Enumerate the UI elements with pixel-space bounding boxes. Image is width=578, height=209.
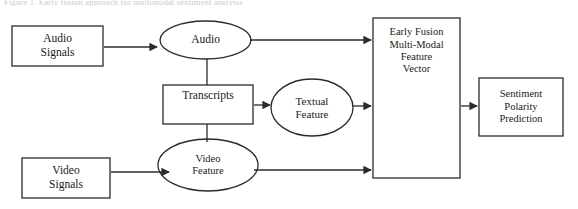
node-shape-transcripts <box>163 85 253 124</box>
node-shape-early-fusion <box>373 18 460 178</box>
node-shape-audio <box>160 21 251 59</box>
node-shape-audio-signals <box>12 26 103 66</box>
node-shape-sentiment-prediction <box>479 78 563 136</box>
node-shape-video-signals <box>22 158 110 198</box>
node-shape-video-feature <box>158 139 258 191</box>
diagram-canvas: Figure 1. Early fusion approach for mult… <box>0 0 578 209</box>
flowchart-graphics <box>0 0 578 209</box>
node-shape-textual-feature <box>271 79 353 136</box>
node-shapes-layer <box>12 18 563 198</box>
